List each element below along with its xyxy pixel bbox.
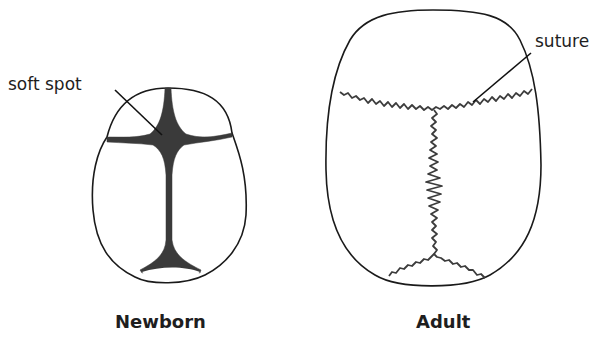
newborn-skull — [92, 88, 246, 283]
suture-leader-line — [473, 53, 531, 102]
soft-spot-label: soft spot — [8, 74, 82, 94]
adult-sagittal-suture — [426, 110, 442, 254]
newborn-soft-spot — [107, 88, 232, 273]
suture-label: suture — [535, 31, 589, 51]
adult-coronal-suture — [340, 89, 532, 110]
skull-diagram — [0, 0, 602, 347]
adult-caption: Adult — [416, 311, 470, 332]
adult-lambdoid-suture — [389, 254, 485, 278]
adult-skull — [326, 10, 541, 286]
soft-spot-leader-line — [115, 90, 162, 135]
newborn-caption: Newborn — [115, 311, 206, 332]
